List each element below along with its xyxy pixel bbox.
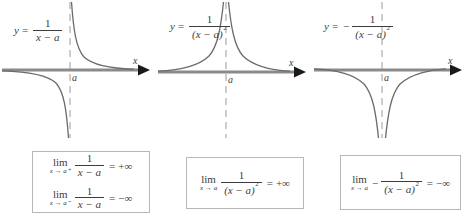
x-axis-arrowhead-2 [294,67,306,78]
limit-box-3: lim x → a − 1 (x − a)2 = −∞ [340,155,461,210]
equation-2-lhs: y [170,21,175,32]
limit-1a-numerator: 1 [84,153,96,165]
limit-statement-3a: lim x → a − 1 (x − a)2 = −∞ [351,170,450,196]
equation-2-numerator: 1 [204,14,216,26]
equation-2-denominator: (x − a)2 [189,26,230,40]
graph-panel-1: y = 1 x − a a x [0,0,155,140]
equation-3-leading-sign: − [343,21,349,32]
limit-3a-denominator: (x − a)2 [381,181,422,195]
equation-1-numerator: 1 [42,18,54,30]
x-axis-label-2: x [289,57,293,68]
limit-1b-fraction: 1 x − a [75,186,104,211]
equation-2-denominator-exponent: 2 [223,24,226,31]
lim-subscript-1a: x → a⁺ [50,168,71,175]
limit-3a-denominator-base: (x − a) [384,183,415,195]
equation-2-denominator-base: (x − a) [192,27,223,39]
equation-2-equals: = [178,21,184,32]
limit-1a-equals: = [109,160,115,172]
lim-subscript-2a: x → a [200,185,217,192]
equation-label-2: y = 1 (x − a)2 [170,14,232,40]
limit-3a-equals: = [427,177,433,189]
equation-label-3: y = − 1 (x − a)2 [324,14,395,40]
limit-2a-denominator-base: (x − a) [224,183,255,195]
limit-2a-fraction: 1 (x − a)2 [221,170,262,196]
tick-label-a-2: a [228,74,233,85]
equation-3-lhs: y [324,21,329,32]
limit-1a-fraction: 1 x − a [75,153,104,178]
equation-1-denominator: x − a [33,30,62,44]
limit-3a-numerator: 1 [396,170,408,182]
curve-3-right-branch [386,69,447,138]
equation-2-fraction: 1 (x − a)2 [189,14,230,40]
equation-1-equals: = [22,25,28,36]
limit-boxes: lim x → a⁺ 1 x − a = +∞ lim x → a⁻ 1 x −… [0,146,467,219]
curve-2-right-branch [229,2,291,71]
equation-3-fraction: 1 (x − a)2 [352,14,393,40]
limit-3a-fraction: 1 (x − a)2 [381,170,422,196]
lim-operator-2a: lim x → a [200,174,217,192]
limit-1b-result: −∞ [118,192,132,204]
tick-label-a-3: a [384,72,389,83]
x-axis-arrowhead-1 [138,65,150,76]
limit-2a-numerator: 1 [236,170,248,182]
limit-2a-denominator-exponent: 2 [255,180,258,187]
limit-2a-denominator: (x − a)2 [221,182,262,196]
curve-1-right-branch [72,2,135,69]
curve-1-left-branch [2,71,69,138]
tick-label-a-1: a [72,72,77,83]
x-axis-label-1: x [133,55,137,66]
limit-1a-result: +∞ [118,160,132,172]
limit-statement-1b: lim x → a⁻ 1 x − a = −∞ [50,186,133,211]
limit-statement-1a: lim x → a⁺ 1 x − a = +∞ [50,153,133,178]
equation-3-denominator-base: (x − a) [355,27,386,39]
limit-1b-denominator: x − a [75,197,104,211]
equation-3-equals: = [332,21,338,32]
lim-subscript-1b: x → a⁻ [50,200,71,207]
graph-panels: y = 1 x − a a x [0,0,467,140]
limit-box-1: lim x → a⁺ 1 x − a = +∞ lim x → a⁻ 1 x −… [32,151,150,213]
limit-1a-denominator: x − a [75,165,104,179]
limit-box-2: lim x → a 1 (x − a)2 = +∞ [186,157,304,209]
equation-3-denominator: (x − a)2 [352,26,393,40]
graph-panel-3: y = − 1 (x − a)2 a x [312,0,467,140]
limit-3a-denominator-exponent: 2 [415,180,418,187]
lim-word-3a: lim [352,174,367,185]
limit-2a-equals: = [267,177,273,189]
x-axis-label-3: x [448,55,452,66]
lim-operator-1b: lim x → a⁻ [50,189,71,207]
limit-1b-equals: = [109,192,115,204]
equation-label-1: y = 1 x − a [14,18,64,43]
equation-3-denominator-exponent: 2 [386,24,389,31]
limit-1b-numerator: 1 [84,186,96,198]
limit-3a-result: −∞ [436,177,450,189]
lim-operator-3a: lim x → a [351,174,368,192]
curve-3-left-branch [314,69,379,138]
limit-3a-leading-sign: − [372,177,378,189]
equation-1-fraction: 1 x − a [33,18,62,43]
limit-2a-result: +∞ [276,177,290,189]
graph-panel-2: y = 1 (x − a)2 a x [156,0,311,140]
equation-3-numerator: 1 [367,14,379,26]
limit-statement-2a: lim x → a 1 (x − a)2 = +∞ [200,170,290,196]
lim-subscript-3a: x → a [351,185,368,192]
equation-1-lhs: y [14,25,19,36]
limits-figure: y = 1 x − a a x [0,0,467,219]
x-axis-arrowhead-3 [450,65,462,76]
lim-operator-1a: lim x → a⁺ [50,157,71,175]
